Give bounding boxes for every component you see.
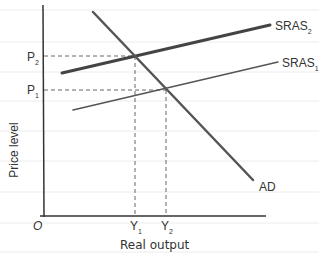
sras1-curve — [73, 62, 278, 110]
y-axis-title: Price level — [7, 122, 21, 177]
ad-label: AD — [259, 180, 276, 194]
as-ad-diagram: SRAS2 SRAS1 AD P2 P1 Y1 Y2 O Real output… — [0, 0, 319, 255]
p1-label: P1 — [27, 83, 39, 99]
ad-curve — [93, 12, 253, 180]
p2-label: P2 — [27, 50, 39, 66]
y2-label: Y2 — [161, 219, 173, 235]
y-axis — [43, 5, 44, 217]
x-axis-title: Real output — [120, 238, 190, 252]
y1-label: Y1 — [130, 219, 142, 235]
sras2-label: SRAS2 — [275, 19, 312, 35]
origin-label: O — [33, 219, 42, 233]
sras1-label: SRAS1 — [282, 56, 319, 72]
sras2-curve — [62, 25, 270, 73]
axes — [40, 5, 266, 217]
